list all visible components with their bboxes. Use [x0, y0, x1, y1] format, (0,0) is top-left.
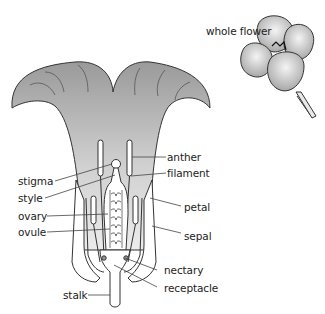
inset-label-whole-flower: whole flower: [206, 26, 272, 37]
label-petal: petal: [184, 202, 210, 213]
label-stigma: stigma: [18, 176, 53, 187]
label-filament: filament: [167, 168, 210, 179]
flower-diagram: [0, 0, 325, 314]
label-stalk: stalk: [63, 290, 88, 301]
label-sepal: sepal: [184, 231, 211, 242]
label-anther: anther: [167, 152, 201, 163]
label-ovary: ovary: [18, 211, 47, 222]
label-style: style: [18, 193, 43, 204]
label-nectary: nectary: [164, 265, 203, 276]
label-receptacle: receptacle: [164, 283, 218, 294]
label-ovule: ovule: [18, 227, 46, 238]
